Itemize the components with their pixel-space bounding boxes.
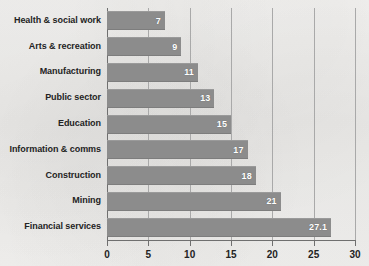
category-label: Health & social work	[14, 15, 101, 25]
bar-value-label: 7	[156, 16, 161, 26]
category-label: Information & comms	[9, 144, 101, 154]
x-tick-label-25: 25	[294, 249, 334, 260]
gridline-25	[314, 8, 315, 240]
horizontal-bar-chart: 0510152025307Health & social work9Arts &…	[0, 0, 369, 266]
x-tick-label-15: 15	[211, 249, 251, 260]
bar-value-label: 15	[217, 119, 227, 129]
x-tick-label-30: 30	[335, 249, 369, 260]
bar-value-label: 9	[172, 42, 177, 52]
bar-value-label: 17	[233, 145, 243, 155]
category-label: Construction	[46, 170, 101, 180]
x-tick-label-20: 20	[252, 249, 292, 260]
x-tick-0	[107, 241, 108, 246]
bar-value-label: 27.1	[309, 222, 327, 232]
category-label: Manufacturing	[40, 66, 101, 76]
x-tick-label-10: 10	[170, 249, 210, 260]
x-tick-20	[272, 241, 273, 246]
category-label: Education	[58, 118, 101, 128]
category-label: Public sector	[45, 92, 101, 102]
x-tick-label-0: 0	[87, 249, 127, 260]
bar-value-label: 11	[184, 67, 194, 77]
bar: 21	[107, 192, 281, 211]
bar: 11	[107, 63, 198, 82]
x-tick-30	[355, 241, 356, 246]
x-tick-25	[314, 241, 315, 246]
bar-value-label: 18	[242, 171, 252, 181]
category-label: Financial services	[24, 221, 101, 231]
bar: 9	[107, 37, 181, 56]
x-tick-label-5: 5	[128, 249, 168, 260]
bar: 15	[107, 115, 231, 134]
bar: 27.1	[107, 218, 331, 237]
bar-value-label: 21	[266, 196, 276, 206]
bar: 17	[107, 140, 248, 159]
x-tick-5	[148, 241, 149, 246]
bar: 13	[107, 89, 214, 108]
gridline-30	[355, 8, 356, 240]
bar: 18	[107, 166, 256, 185]
bar-value-label: 13	[200, 93, 210, 103]
x-tick-15	[231, 241, 232, 246]
x-tick-10	[190, 241, 191, 246]
category-label: Arts & recreation	[29, 41, 101, 51]
bar: 7	[107, 11, 165, 30]
category-label: Mining	[72, 195, 101, 205]
